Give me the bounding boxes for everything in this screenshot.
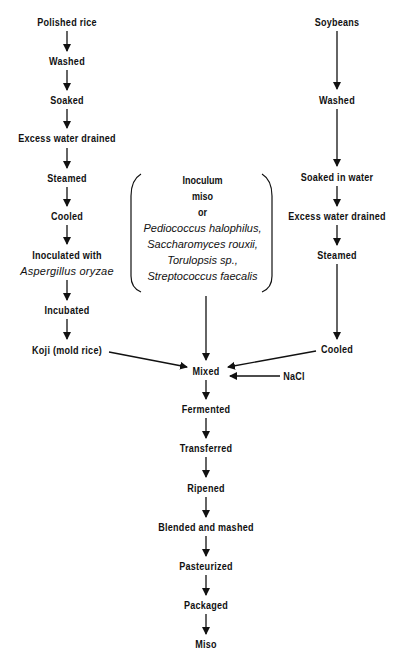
node-rice-cooled: Cooled xyxy=(51,208,83,224)
node-inoculated-with: Inoculated with xyxy=(32,247,102,263)
node-soy-excess-water-drained: Excess water drained xyxy=(288,208,386,224)
organism-saccharomyces: Saccharomyces rouxii, xyxy=(130,236,275,252)
inoculum-or: or xyxy=(140,204,265,220)
organism-pediococcus: Pediococcus halophilus, xyxy=(130,220,275,236)
node-aspergillus-oryzae: Aspergillus oryzae xyxy=(20,263,113,279)
arrow-koji-to-mixed xyxy=(109,352,187,367)
inoculum-miso: miso xyxy=(140,188,265,204)
inoculum-title: Inoculum xyxy=(140,172,265,188)
node-fermented: Fermented xyxy=(182,401,230,417)
node-soy-washed: Washed xyxy=(319,92,355,108)
node-soybeans: Soybeans xyxy=(315,14,360,30)
node-polished-rice: Polished rice xyxy=(37,14,97,30)
node-rice-soaked: Soaked xyxy=(50,92,84,108)
arrow-cooled-to-mixed xyxy=(228,351,316,367)
node-soy-steamed: Steamed xyxy=(317,247,356,263)
node-soy-cooled: Cooled xyxy=(321,341,353,357)
node-rice-washed: Washed xyxy=(49,53,85,69)
node-rice-steamed: Steamed xyxy=(47,170,86,186)
node-packaged: Packaged xyxy=(184,597,228,613)
node-mixed: Mixed xyxy=(193,363,220,379)
organism-streptococcus: Streptococcus faecalis xyxy=(130,268,275,284)
node-blended-and-mashed: Blended and mashed xyxy=(158,519,253,535)
organism-torulopsis: Torulopsis sp., xyxy=(130,252,275,268)
node-pasteurized: Pasteurized xyxy=(179,558,233,574)
node-transferred: Transferred xyxy=(180,440,233,456)
inoculum-group: Inoculum miso or Pediococcus halophilus,… xyxy=(130,172,275,294)
node-miso: Miso xyxy=(195,636,217,652)
node-nacl: NaCl xyxy=(283,368,305,384)
node-koji: Koji (mold rice) xyxy=(32,342,102,358)
node-soaked-in-water: Soaked in water xyxy=(301,169,374,185)
node-ripened: Ripened xyxy=(187,480,224,496)
node-rice-excess-water-drained: Excess water drained xyxy=(18,130,116,146)
node-incubated: Incubated xyxy=(45,302,90,318)
